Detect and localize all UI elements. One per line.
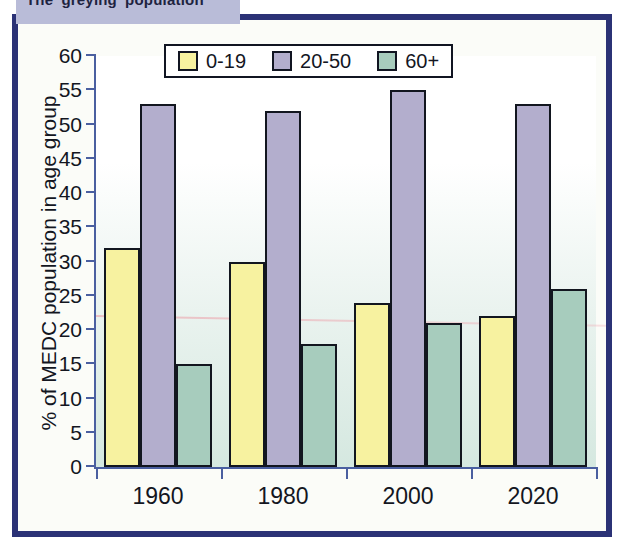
- x-axis-tick-label: 1960: [132, 483, 183, 510]
- y-axis-tick-label: 15: [59, 352, 82, 376]
- y-axis-tick: [86, 157, 96, 159]
- x-axis-tick-label: 2020: [507, 483, 558, 510]
- legend-entry[interactable]: 20-50: [272, 51, 351, 71]
- x-axis-tick: [471, 467, 473, 479]
- bar-group: [354, 56, 462, 467]
- y-axis-tick: [86, 123, 96, 125]
- y-axis-tick: [86, 465, 96, 467]
- bar-20-50-1960[interactable]: [140, 104, 176, 467]
- page-title: The 'greying' population: [26, 0, 204, 8]
- bar-60plus-2000[interactable]: [426, 323, 462, 467]
- legend-label: 60+: [405, 51, 439, 71]
- y-axis-tick-label: 45: [59, 147, 82, 171]
- legend-label: 0-19: [206, 51, 246, 71]
- y-axis-tick-label: 30: [59, 250, 82, 274]
- y-axis-title-label: % of MEDC population in age group: [37, 95, 61, 430]
- y-axis-tick-label: 50: [59, 113, 82, 137]
- bar-20-50-2000[interactable]: [390, 90, 426, 467]
- y-axis-tick-label: 25: [59, 284, 82, 308]
- legend-swatch-icon: [377, 51, 397, 71]
- x-axis-tick: [346, 467, 348, 479]
- chart-figure-frame: 0-1920-5060+ % of MEDC population in age…: [12, 14, 612, 537]
- bar-group: [104, 56, 212, 467]
- y-axis-tick: [86, 362, 96, 364]
- y-axis-tick-label: 60: [59, 44, 82, 68]
- y-axis-tick-label: 5: [70, 421, 82, 445]
- bar-20-50-2020[interactable]: [515, 104, 551, 467]
- chart-title-bar: The 'greying' population: [16, 0, 240, 24]
- plot-wrapper: 0510152025303540455055601960198020002020: [94, 56, 596, 469]
- bars-layer: [96, 56, 596, 467]
- bar-0-19-2000[interactable]: [354, 303, 390, 467]
- x-axis-tick: [96, 467, 98, 479]
- y-axis-tick: [86, 397, 96, 399]
- bar-60plus-1980[interactable]: [301, 344, 337, 467]
- bar-group: [479, 56, 587, 467]
- bar-0-19-1980[interactable]: [229, 262, 265, 468]
- y-axis-tick-label: 55: [59, 78, 82, 102]
- bar-group: [229, 56, 337, 467]
- legend-entry[interactable]: 0-19: [178, 51, 246, 71]
- legend-swatch-icon: [272, 51, 292, 71]
- legend-swatch-icon: [178, 51, 198, 71]
- x-axis-tick-label: 1980: [257, 483, 308, 510]
- y-axis-tick: [86, 54, 96, 56]
- plot-area: 0510152025303540455055601960198020002020: [94, 56, 596, 469]
- bar-20-50-1980[interactable]: [265, 111, 301, 467]
- x-axis-tick: [596, 467, 598, 479]
- bar-0-19-1960[interactable]: [104, 248, 140, 467]
- bar-60plus-2020[interactable]: [551, 289, 587, 467]
- y-axis-tick: [86, 88, 96, 90]
- bar-60plus-1960[interactable]: [176, 364, 212, 467]
- x-axis-tick-label: 2000: [382, 483, 433, 510]
- y-axis-tick: [86, 225, 96, 227]
- bar-0-19-2020[interactable]: [479, 316, 515, 467]
- y-axis-tick: [86, 294, 96, 296]
- y-axis-tick: [86, 260, 96, 262]
- y-axis-tick-label: 35: [59, 215, 82, 239]
- y-axis-tick: [86, 328, 96, 330]
- legend-label: 20-50: [300, 51, 351, 71]
- chart-legend: 0-1920-5060+: [164, 44, 453, 78]
- y-axis-tick: [86, 191, 96, 193]
- y-axis-tick: [86, 431, 96, 433]
- x-axis-tick: [221, 467, 223, 479]
- chart-figure-inner: 0-1920-5060+ % of MEDC population in age…: [18, 20, 606, 531]
- y-axis-tick-label: 10: [59, 387, 82, 411]
- y-axis-tick-label: 20: [59, 318, 82, 342]
- legend-entry[interactable]: 60+: [377, 51, 439, 71]
- y-axis-tick-label: 0: [70, 455, 82, 479]
- y-axis-tick-label: 40: [59, 181, 82, 205]
